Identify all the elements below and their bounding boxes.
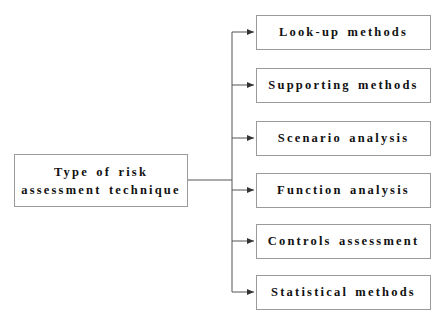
node-statistical-methods: Statistical methods [256,275,431,310]
node-supporting-methods: Supporting methods [256,68,431,103]
node-label: Statistical methods [271,285,416,300]
node-controls-assessment: Controls assessment [256,224,431,259]
root-node-label-line1: Type of risk [54,163,148,181]
node-scenario-analysis: Scenario analysis [256,121,431,156]
node-label: Look-up methods [279,25,408,40]
node-label: Scenario analysis [278,131,409,146]
node-label: Function analysis [277,183,410,198]
root-node-risk-assessment-technique: Type of risk assessment technique [14,154,188,207]
node-look-up-methods: Look-up methods [256,15,431,50]
node-label: Supporting methods [268,78,418,93]
node-function-analysis: Function analysis [256,173,431,208]
node-label: Controls assessment [268,234,420,249]
root-node-label-line2: assessment technique [21,181,181,199]
